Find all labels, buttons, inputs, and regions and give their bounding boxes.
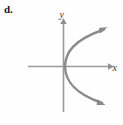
parabola-plot: x y xyxy=(0,0,123,125)
figure-container: d. x y xyxy=(0,0,123,125)
y-axis-label: y xyxy=(59,9,65,20)
parabola-lower-branch xyxy=(65,67,102,104)
x-axis-label: x xyxy=(112,62,118,73)
parabola-upper-branch xyxy=(65,30,104,67)
upper-branch-arrowhead-icon xyxy=(99,27,108,34)
lower-branch-arrowhead-icon xyxy=(97,99,106,105)
